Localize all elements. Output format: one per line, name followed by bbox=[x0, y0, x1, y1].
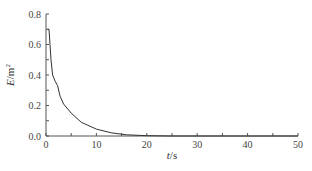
axes bbox=[46, 14, 298, 136]
y-tick-label: 0.8 bbox=[29, 9, 42, 20]
x-tick-label: 30 bbox=[192, 139, 202, 150]
y-axis-unit: /m bbox=[4, 67, 16, 79]
x-tick-label: 50 bbox=[293, 139, 303, 150]
y-axis-sup: 2 bbox=[4, 64, 12, 68]
x-tick-label: 20 bbox=[142, 139, 152, 150]
y-axis-title: E/m2 bbox=[4, 64, 16, 87]
line-chart: 0.00.20.40.60.801020304050 t/s E/m2 bbox=[0, 0, 312, 171]
x-tick-label: 10 bbox=[91, 139, 101, 150]
y-tick-label: 0.4 bbox=[29, 70, 42, 81]
y-tick-label: 0.0 bbox=[29, 131, 42, 142]
x-axis-title: t/s bbox=[167, 149, 177, 161]
x-axis-unit: /s bbox=[170, 149, 177, 161]
y-tick-label: 0.2 bbox=[29, 100, 42, 111]
x-tick-label: 40 bbox=[243, 139, 253, 150]
tick-labels: 0.00.20.40.60.801020304050 bbox=[29, 9, 304, 151]
y-tick-label: 0.6 bbox=[29, 39, 42, 50]
data-series-line bbox=[48, 29, 299, 136]
ticks bbox=[46, 14, 298, 136]
x-tick-label: 0 bbox=[44, 139, 49, 150]
